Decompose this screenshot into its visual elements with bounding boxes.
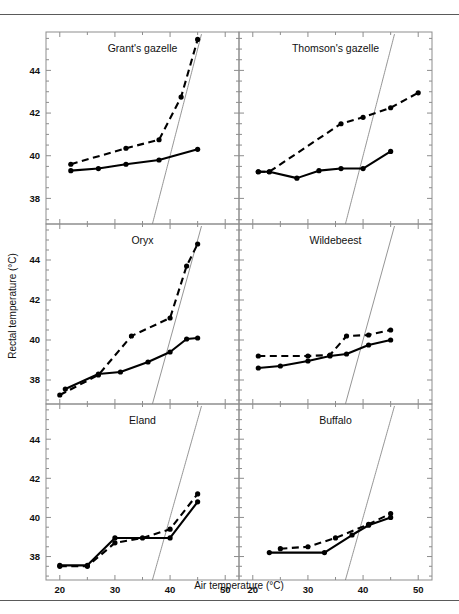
data-point [267,169,272,174]
data-point [156,137,161,142]
y-tick-label: 38 [29,551,40,562]
data-point [327,352,332,357]
y-axis-title: Rectal temperature (°C) [7,253,18,359]
identity-line [345,34,394,224]
y-tick-label: 42 [29,107,40,118]
data-point [278,546,283,551]
data-point [195,335,200,340]
data-point [344,351,349,356]
panel-frame [46,404,239,580]
data-point [195,499,200,504]
data-point [366,522,371,527]
x-tick-label: 20 [54,584,65,595]
data-point [123,146,128,151]
data-point [294,176,299,181]
series-line-hydrated [71,149,198,170]
data-point [338,121,343,126]
identity-line [152,34,201,224]
x-tick-label: 30 [303,584,314,595]
data-point [344,333,349,338]
panel-frame [46,224,239,404]
data-point [195,37,200,42]
panel-frame [46,32,239,224]
data-point [256,169,261,174]
series-line-hydrated [258,151,390,178]
panel-title-grants-gazelle: Grant's gazelle [108,42,178,54]
panel-thomsons-gazelle: Thomson's gazelle [239,32,432,224]
x-tick-label: 50 [413,584,424,595]
data-point [68,168,73,173]
data-point [388,149,393,154]
data-point [416,90,421,95]
y-tick-label: 42 [29,294,40,305]
data-point [57,564,62,569]
data-point [112,540,117,545]
panel-eland: 3840424420304050Eland [29,404,239,595]
series-line-dehydrated [60,244,198,395]
data-point [167,315,172,320]
data-point [305,544,310,549]
panel-frame [239,32,432,224]
panel-title-oryx: Oryx [131,234,154,246]
data-point [156,157,161,162]
data-point [184,336,189,341]
data-point [167,535,172,540]
data-point [63,386,68,391]
panel-wildebeest: Wildebeest [239,224,432,404]
y-tick-label: 38 [29,374,40,385]
panel-frame [239,224,432,404]
data-point [256,353,261,358]
data-point [349,532,354,537]
data-point [140,535,145,540]
data-point [360,115,365,120]
y-tick-label: 44 [29,254,40,265]
y-tick-label: 44 [29,434,40,445]
data-point [112,535,117,540]
data-point [96,372,101,377]
y-tick-label: 42 [29,473,40,484]
panel-title-thomsons-gazelle: Thomson's gazelle [292,42,379,54]
series-line-dehydrated [280,514,390,549]
data-point [96,166,101,171]
data-point [145,359,150,364]
data-point [316,168,321,173]
data-point [388,327,393,332]
series-line-dehydrated [71,39,198,164]
y-tick-label: 40 [29,150,40,161]
data-point [167,527,172,532]
y-tick-label: 40 [29,334,40,345]
data-point [167,349,172,354]
panel-title-wildebeest: Wildebeest [310,234,362,246]
y-tick-label: 38 [29,193,40,204]
identity-line [152,406,201,580]
data-point [184,263,189,268]
data-point [68,162,73,167]
panel-buffalo: 20304050Buffalo [239,404,432,595]
data-point [388,511,393,516]
identity-line [345,226,394,404]
data-point [388,337,393,342]
data-point [85,564,90,569]
data-point [338,166,343,171]
data-point [388,105,393,110]
panel-oryx: 38404244Oryx [29,224,239,404]
series-line-hydrated [60,502,198,566]
x-axis-title: Air temperature (°C) [194,580,284,591]
x-tick-label: 40 [358,584,369,595]
data-point [195,491,200,496]
x-tick-label: 30 [110,584,121,595]
data-point [366,342,371,347]
panel-grants-gazelle: 38404244Grant's gazelle [29,32,239,224]
identity-line [345,406,394,580]
data-point [57,392,62,397]
y-tick-label: 44 [29,65,40,76]
multi-panel-line-chart: 38404244Grant's gazelleThomson's gazelle… [0,0,459,614]
figure-root: 38404244Grant's gazelleThomson's gazelle… [0,0,459,614]
data-point [195,147,200,152]
panel-title-eland: Eland [129,414,156,426]
x-tick-label: 40 [165,584,176,595]
data-point [360,166,365,171]
data-point [256,365,261,370]
data-point [123,162,128,167]
data-point [267,550,272,555]
